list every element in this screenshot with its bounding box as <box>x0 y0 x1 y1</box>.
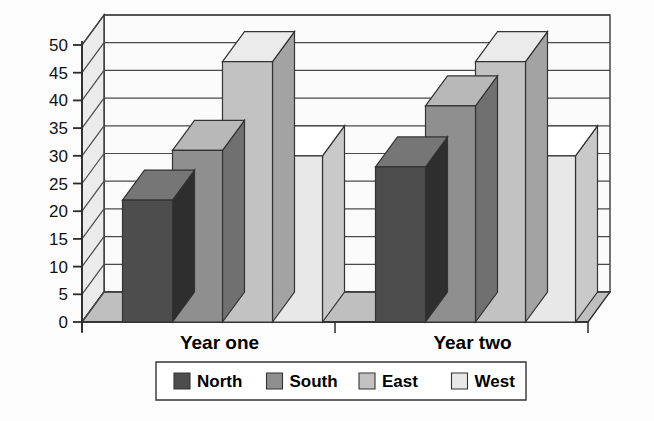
legend-label-west: West <box>475 372 516 391</box>
bar-west-year-one-side <box>323 126 345 322</box>
bar-north-year-two-front <box>376 167 426 322</box>
bar-south-year-one-side <box>223 120 245 322</box>
legend-swatch-south <box>267 373 283 389</box>
y-tick-label-35: 35 <box>49 119 68 138</box>
y-tick-label-5: 5 <box>59 285 68 304</box>
y-tick-label-20: 20 <box>49 202 68 221</box>
bar-south-year-two-side <box>476 76 498 322</box>
legend-label-east: East <box>382 372 418 391</box>
y-tick-label-25: 25 <box>49 175 68 194</box>
legend-swatch-north <box>174 373 190 389</box>
bar-east-year-one-side <box>273 32 295 322</box>
legend-swatch-east <box>359 373 375 389</box>
y-tick-label-50: 50 <box>49 36 68 55</box>
bar-east-year-two-side <box>526 32 548 322</box>
y-tick-label-40: 40 <box>49 91 68 110</box>
category-label-year-two: Year two <box>433 332 511 353</box>
bar-north-year-one-front <box>123 200 173 322</box>
bar-chart-3d: 05101520253035404550Year oneYear twoNort… <box>0 0 654 421</box>
bar-north-year-two-side <box>426 137 448 322</box>
legend-label-south: South <box>290 372 338 391</box>
category-label-year-one: Year one <box>180 332 259 353</box>
y-tick-label-30: 30 <box>49 147 68 166</box>
legend-label-north: North <box>197 372 242 391</box>
y-tick-label-0: 0 <box>59 313 68 332</box>
y-tick-label-15: 15 <box>49 230 68 249</box>
y-tick-label-10: 10 <box>49 258 68 277</box>
legend-swatch-west <box>452 373 468 389</box>
bar-west-year-two-side <box>576 126 598 322</box>
chart-figure: 05101520253035404550Year oneYear twoNort… <box>0 0 654 421</box>
y-tick-label-45: 45 <box>49 64 68 83</box>
